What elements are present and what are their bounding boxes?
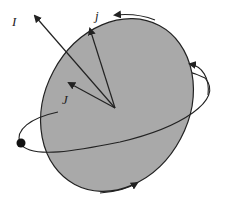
label-j: j [93, 8, 99, 23]
tilted-ellipsoid-body [11, 0, 223, 199]
orbiting-point-mass [17, 139, 26, 148]
diagram-stage: I j J [0, 0, 227, 199]
rotation-diagram: I j J [0, 0, 227, 199]
label-I: I [11, 14, 17, 29]
